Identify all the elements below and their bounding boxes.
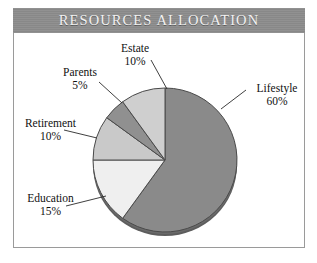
page-title: RESOURCES ALLOCATION <box>59 12 259 29</box>
pie-label-education-percent: 15% <box>13 205 88 218</box>
pie-label-parents-percent: 5% <box>49 79 111 92</box>
pie-label-parents-name: Parents <box>49 66 111 79</box>
pie-label-retirement-percent: 10% <box>13 130 88 143</box>
pie-label-education-name: Education <box>13 192 88 205</box>
chart-title-band: RESOURCES ALLOCATION <box>13 8 305 33</box>
pie-label-estate: Estate 10% <box>104 42 166 67</box>
pie-label-lifestyle-name: Lifestyle <box>244 82 310 95</box>
pie-label-estate-name: Estate <box>104 42 166 55</box>
leader-line-lifestyle <box>221 90 246 109</box>
pie-label-estate-percent: 10% <box>104 55 166 68</box>
pie-label-retirement-name: Retirement <box>13 117 88 130</box>
pie-label-lifestyle-percent: 60% <box>244 95 310 108</box>
pie-label-retirement: Retirement 10% <box>13 117 88 142</box>
pie-label-lifestyle: Lifestyle 60% <box>244 82 310 107</box>
pie-label-parents: Parents 5% <box>49 66 111 91</box>
pie-label-education: Education 15% <box>13 192 88 217</box>
chart-screenshot: RESOURCES ALLOCATION <box>0 0 317 263</box>
